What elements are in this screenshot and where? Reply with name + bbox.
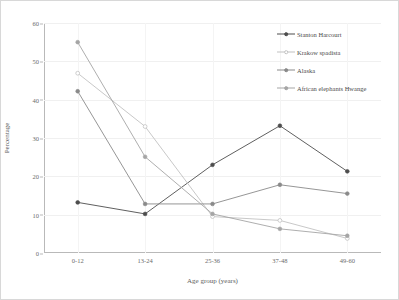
legend-item[interactable]: Krakow spadista — [277, 43, 395, 61]
series-line — [78, 91, 348, 204]
x-tick-label: 13-24 — [138, 257, 153, 264]
series-2 — [76, 89, 349, 206]
legend-label: African elephants Hwange — [295, 85, 366, 92]
x-tick-label: 25-36 — [205, 257, 220, 264]
legend-marker-icon — [277, 65, 295, 75]
legend-marker-icon — [277, 47, 295, 57]
data-point — [143, 155, 147, 159]
x-axis-title: Age group (years) — [44, 277, 381, 285]
legend-label: Stanton Harcourt — [295, 31, 342, 38]
legend-label: Alaska — [295, 67, 315, 74]
y-tick-mark — [40, 215, 43, 216]
legend-dot — [284, 32, 288, 36]
data-point — [211, 202, 215, 206]
legend-dot — [284, 68, 288, 72]
y-tick-label: 20 — [33, 173, 40, 180]
data-point — [143, 212, 147, 216]
data-point — [345, 234, 349, 238]
data-point — [143, 125, 147, 129]
data-point — [278, 183, 282, 187]
y-tick-label: 10 — [33, 211, 40, 218]
x-tick-label: 37-48 — [272, 257, 287, 264]
data-point — [76, 89, 80, 93]
y-tick-mark — [40, 23, 43, 24]
data-point — [345, 192, 349, 196]
legend: Stanton HarcourtKrakow spadistaAlaskaAfr… — [277, 25, 395, 97]
legend-label: Krakow spadista — [295, 49, 341, 56]
y-tick-label: 0 — [36, 250, 39, 257]
y-tick-mark — [40, 100, 43, 101]
legend-item[interactable]: African elephants Hwange — [277, 79, 395, 97]
y-axis-title: Percentage — [3, 123, 11, 154]
series-line — [78, 126, 348, 214]
y-tick-mark — [40, 138, 43, 139]
data-point — [345, 169, 349, 173]
data-point — [76, 40, 80, 44]
data-point — [278, 124, 282, 128]
data-point — [76, 201, 80, 205]
data-point — [211, 163, 215, 167]
data-point — [211, 212, 215, 216]
y-tick-label: 40 — [33, 96, 40, 103]
y-tick-mark — [40, 61, 43, 62]
chart-figure: 0102030405060 0-1213-2425-3637-4849-60 A… — [0, 0, 399, 300]
legend-dot — [284, 50, 288, 54]
data-point — [76, 71, 80, 75]
x-tick-label: 49-60 — [340, 257, 355, 264]
y-tick-label: 50 — [33, 58, 40, 65]
data-point — [143, 202, 147, 206]
legend-marker-icon — [277, 29, 295, 39]
legend-dot — [284, 86, 288, 90]
legend-marker-icon — [277, 83, 295, 93]
x-tick-label: 0-12 — [72, 257, 84, 264]
y-tick-label: 30 — [33, 135, 40, 142]
legend-item[interactable]: Stanton Harcourt — [277, 25, 395, 43]
data-point — [278, 227, 282, 231]
y-tick-label: 60 — [33, 20, 40, 27]
y-tick-mark — [40, 176, 43, 177]
y-tick-mark — [40, 253, 43, 254]
data-point — [278, 219, 282, 223]
legend-item[interactable]: Alaska — [277, 61, 395, 79]
